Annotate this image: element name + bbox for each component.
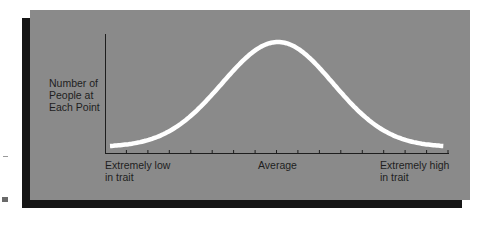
y-axis-label: Number of People at Each Point (49, 77, 100, 113)
y-label-line-1: Number of (49, 77, 100, 89)
x-label-average: Average (258, 159, 297, 171)
distribution-curve (110, 42, 443, 146)
y-label-line-3: Each Point (49, 101, 100, 113)
x-label-low: Extremely low in trait (105, 159, 170, 183)
x-label-low-line-1: Extremely low (105, 159, 170, 171)
x-label-high-line-1: Extremely high (380, 159, 449, 171)
y-label-line-2: People at (49, 89, 100, 101)
x-label-high-line-2: in trait (380, 171, 449, 183)
x-label-high: Extremely high in trait (380, 159, 449, 183)
x-axis (105, 150, 449, 154)
x-label-low-line-2: in trait (105, 171, 170, 183)
